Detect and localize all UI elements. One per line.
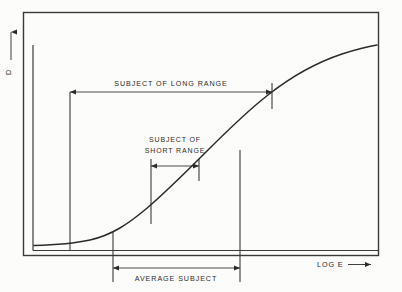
figure-canvas: D LOG E SUBJECT OF LONG RANGE SUBJECT OF… (0, 0, 402, 292)
annotation-average-subject-label: AVERAGE SUBJECT (135, 274, 217, 283)
characteristic-curve-figure: D LOG E SUBJECT OF LONG RANGE SUBJECT OF… (0, 0, 402, 292)
annotation-short-range-label-line2: SHORT RANGE (145, 147, 205, 154)
figure-frame (24, 13, 379, 256)
y-axis-label-group: D (4, 32, 13, 75)
annotation-average-subject: AVERAGE SUBJECT (113, 268, 240, 283)
annotation-long-range-label: SUBJECT OF LONG RANGE (114, 79, 227, 88)
x-axis-label: LOG E (317, 260, 343, 269)
y-axis-label: D (4, 69, 13, 75)
characteristic-curve (34, 45, 377, 246)
x-axis-label-group: LOG E (317, 260, 371, 269)
annotation-short-range-label-line1: SUBJECT OF (149, 136, 201, 143)
annotation-long-range: SUBJECT OF LONG RANGE (70, 79, 272, 92)
